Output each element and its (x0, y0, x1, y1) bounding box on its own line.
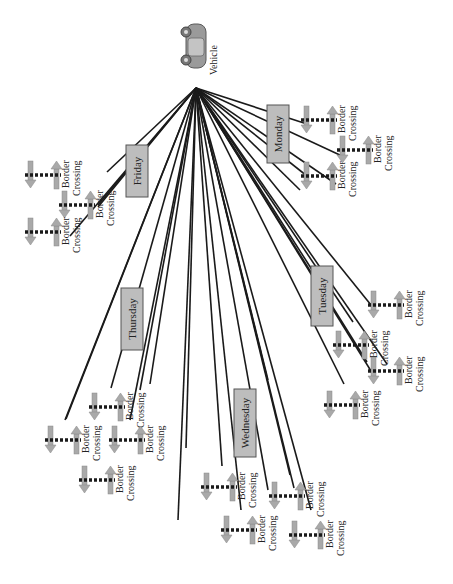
connector-line (196, 88, 387, 364)
border-crossing-label: Border (114, 465, 125, 493)
day-label: Tuesday (316, 277, 328, 314)
border-crossing-label: Border (60, 217, 71, 245)
border-crossing-label: Border (336, 161, 347, 189)
border-crossing-label: Border (256, 515, 267, 543)
border-crossing-label: Border (368, 330, 379, 358)
connector-line (178, 88, 196, 520)
day-label: Thursday (126, 298, 138, 340)
border-crossing-label: Crossing (335, 520, 346, 556)
day-box-tuesday: Tuesday (311, 266, 333, 326)
border-crossing-label: Border (336, 105, 347, 133)
vehicle-label: Vehicle (208, 44, 219, 75)
border-crossing-label: Border (304, 481, 315, 509)
border-crossing: BorderCrossing (221, 515, 278, 551)
border-crossing-label: Crossing (125, 465, 136, 501)
day-box-wednesday: Wednesday (234, 389, 256, 457)
connector-lines (65, 88, 387, 520)
connector-line (196, 88, 307, 124)
border-crossing-label: Border (372, 135, 383, 163)
border-crossing: BorderCrossing (79, 465, 136, 501)
border-crossing-label: Crossing (135, 392, 146, 428)
car-icon (181, 24, 206, 68)
border-crossing-label: Border (324, 520, 335, 548)
border-crossing-label: Border (124, 392, 135, 420)
border-crossing-label: Border (60, 160, 71, 188)
border-crossing: BorderCrossing (45, 425, 102, 461)
border-crossing: BorderCrossing (109, 425, 166, 461)
border-crossing: BorderCrossing (301, 105, 358, 141)
border-crossing-label: Crossing (315, 481, 326, 517)
border-crossing-label: Border (359, 390, 370, 418)
vehicle-node: Vehicle (181, 24, 219, 75)
border-crossing: BorderCrossing (25, 217, 82, 253)
border-crossing-label: Border (80, 425, 91, 453)
border-crossings: BorderCrossingBorderCrossingBorderCrossi… (25, 105, 425, 556)
day-box-thursday: Thursday (121, 288, 143, 350)
border-crossing-label: Crossing (414, 356, 425, 392)
border-crossing-label: Crossing (247, 472, 258, 508)
border-crossing: BorderCrossing (324, 390, 381, 426)
day-label: Friday (131, 156, 143, 185)
vehicle-border-crossing-diagram: BorderCrossingBorderCrossingBorderCrossi… (0, 0, 453, 584)
border-crossing-label: Crossing (71, 217, 82, 253)
border-crossing-label: Crossing (71, 160, 82, 196)
border-crossing-label: Crossing (383, 135, 394, 171)
day-box-monday: Monday (267, 105, 289, 163)
connector-line (66, 88, 196, 419)
border-crossing: BorderCrossing (201, 472, 258, 508)
connector-line (196, 88, 336, 184)
border-crossing: BorderCrossing (333, 330, 390, 366)
border-crossing-label: Border (144, 425, 155, 453)
border-crossing: BorderCrossing (368, 290, 425, 326)
border-crossing-label: Crossing (347, 161, 358, 197)
border-crossing-label: Border (403, 356, 414, 384)
border-crossing-label: Border (403, 290, 414, 318)
border-crossing-label: Crossing (347, 105, 358, 141)
border-crossing-label: Border (236, 472, 247, 500)
day-boxes: FridayMondayThursdayTuesdayWednesday (121, 105, 333, 457)
border-crossing-label: Crossing (91, 425, 102, 461)
border-crossing-label: Crossing (414, 290, 425, 326)
day-box-friday: Friday (126, 145, 148, 197)
border-crossing: BorderCrossing (269, 481, 326, 517)
border-crossing-label: Crossing (370, 390, 381, 426)
border-crossing-label: Crossing (105, 190, 116, 226)
day-label: Wednesday (239, 397, 251, 448)
day-label: Monday (272, 115, 284, 152)
border-crossing-label: Crossing (155, 425, 166, 461)
border-crossing-label: Crossing (379, 330, 390, 366)
border-crossing-label: Crossing (267, 515, 278, 551)
border-crossing-label: Border (94, 190, 105, 218)
border-crossing: BorderCrossing (89, 392, 146, 428)
border-crossing: BorderCrossing (368, 356, 425, 392)
border-crossing: BorderCrossing (25, 160, 82, 196)
border-crossing: BorderCrossing (289, 520, 346, 556)
